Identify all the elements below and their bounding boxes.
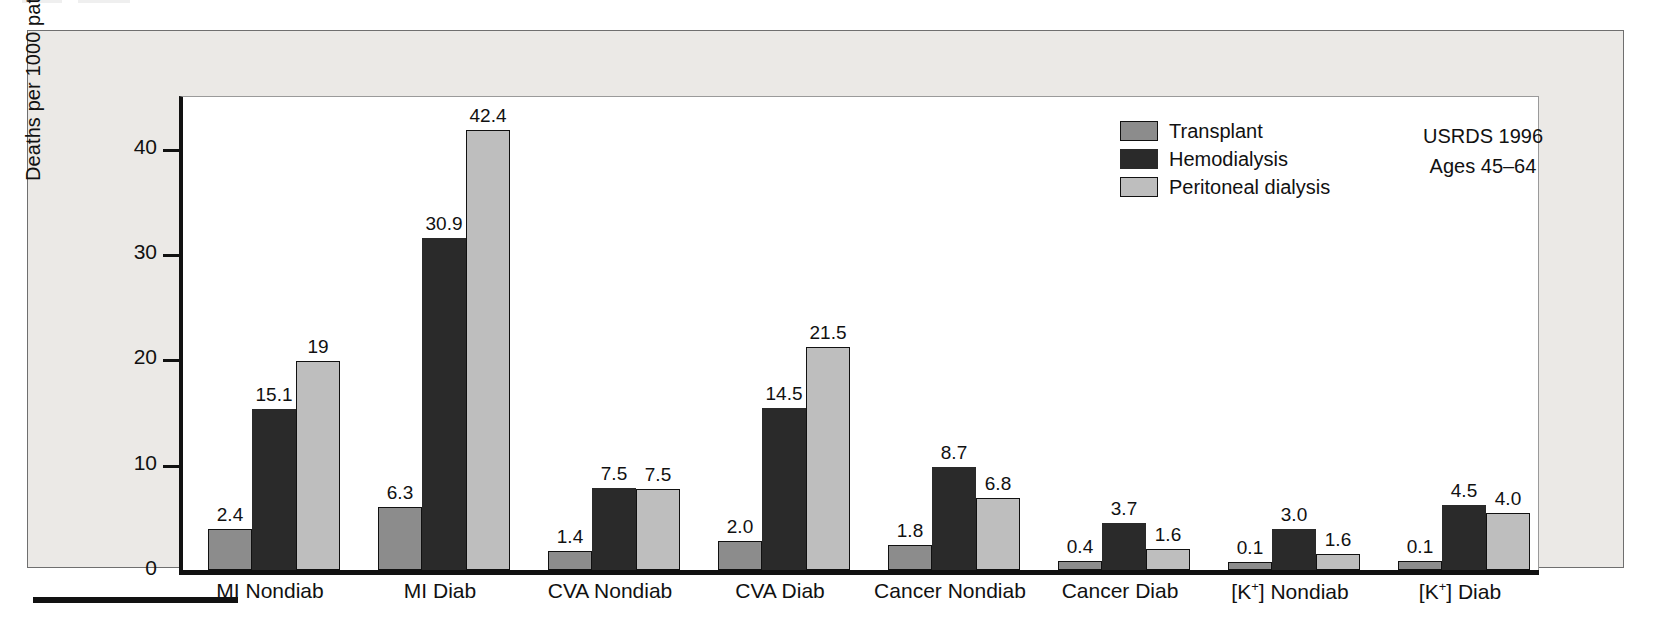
annotation-line-1: USRDS 1996	[1388, 121, 1578, 151]
bar	[592, 488, 636, 570]
figure-panel: Deaths per 1000 patient-years 010203040 …	[27, 30, 1624, 568]
bar-value-label: 6.8	[985, 473, 1011, 495]
bar	[1486, 513, 1530, 570]
bar	[888, 545, 932, 570]
bar-value-label: 6.3	[387, 482, 413, 504]
bars-layer: 2.415.1196.330.942.41.47.57.52.014.521.5…	[183, 97, 1538, 570]
bar-value-label: 15.1	[256, 384, 293, 406]
bar	[466, 130, 510, 570]
y-axis-tick-label: 30	[134, 240, 157, 264]
bar	[1272, 529, 1316, 570]
y-axis-tick-label: 10	[134, 451, 157, 475]
x-axis-label: [K+] Nondiab	[1231, 579, 1348, 604]
y-axis-tick-label: 20	[134, 345, 157, 369]
bar	[806, 347, 850, 570]
bar-value-label: 1.8	[897, 520, 923, 542]
x-axis-label: Cancer Diab	[1062, 579, 1179, 603]
y-axis-tick-label: 0	[145, 556, 157, 580]
bar-value-label: 8.7	[941, 442, 967, 464]
x-axis-label: CVA Diab	[735, 579, 825, 603]
legend: TransplantHemodialysisPeritoneal dialysi…	[1120, 119, 1330, 203]
bar-value-label: 42.4	[470, 105, 507, 127]
x-axis-label: CVA Nondiab	[548, 579, 673, 603]
legend-item: Peritoneal dialysis	[1120, 175, 1330, 199]
annotation-line-2: Ages 45–64	[1388, 151, 1578, 181]
x-axis-label: Cancer Nondiab	[874, 579, 1026, 603]
y-axis-tick-mark	[163, 149, 179, 152]
bar-value-label: 1.6	[1155, 524, 1181, 546]
bar	[976, 498, 1020, 570]
y-axis-tick: 10	[131, 465, 179, 466]
bar	[296, 361, 340, 570]
bar	[1058, 561, 1102, 570]
bar-value-label: 3.7	[1111, 498, 1137, 520]
bar	[1442, 505, 1486, 570]
y-axis-title: Deaths per 1000 patient-years	[22, 0, 45, 181]
y-axis-tick: 0	[131, 570, 179, 571]
bar	[1102, 523, 1146, 570]
bar-value-label: 1.6	[1325, 529, 1351, 551]
caption-rule	[33, 597, 238, 603]
y-axis-tick-label: 40	[134, 135, 157, 159]
bar	[1146, 549, 1190, 570]
bar-value-label: 0.1	[1237, 537, 1263, 559]
source-annotation: USRDS 1996 Ages 45–64	[1388, 121, 1578, 181]
bar-value-label: 30.9	[426, 213, 463, 235]
bar-value-label: 7.5	[645, 464, 671, 486]
bar	[422, 238, 466, 570]
plot-area: 2.415.1196.330.942.41.47.57.52.014.521.5…	[179, 96, 1539, 570]
bar-value-label: 14.5	[766, 383, 803, 405]
legend-swatch	[1120, 149, 1158, 169]
y-axis-tick-mark	[163, 359, 179, 362]
bar	[762, 408, 806, 570]
y-axis-tick: 20	[131, 359, 179, 360]
bar	[548, 551, 592, 570]
y-axis-tick-mark	[163, 254, 179, 257]
legend-label: Hemodialysis	[1169, 148, 1288, 171]
x-axis-baseline	[179, 570, 1539, 575]
bar-value-label: 4.5	[1451, 480, 1477, 502]
legend-item: Transplant	[1120, 119, 1330, 143]
bar-value-label: 21.5	[810, 322, 847, 344]
bar-value-label: 0.4	[1067, 536, 1093, 558]
bar-value-label: 19	[307, 336, 328, 358]
legend-label: Transplant	[1169, 120, 1263, 143]
legend-label: Peritoneal dialysis	[1169, 176, 1330, 199]
bar-value-label: 2.0	[727, 516, 753, 538]
bar	[252, 409, 296, 570]
bar	[932, 467, 976, 570]
bar-value-label: 2.4	[217, 504, 243, 526]
legend-swatch	[1120, 121, 1158, 141]
bar	[636, 489, 680, 570]
legend-item: Hemodialysis	[1120, 147, 1330, 171]
bar	[208, 529, 252, 570]
figure-page: Deaths per 1000 patient-years 010203040 …	[0, 0, 1661, 629]
y-axis-tick: 30	[131, 254, 179, 255]
x-axis-label: MI Diab	[404, 579, 476, 603]
bar	[1316, 554, 1360, 570]
bar-value-label: 7.5	[601, 463, 627, 485]
legend-swatch	[1120, 177, 1158, 197]
top-edge-mark-right	[78, 0, 130, 3]
bar	[718, 541, 762, 570]
bar-value-label: 3.0	[1281, 504, 1307, 526]
bar-value-label: 0.1	[1407, 536, 1433, 558]
bar-value-label: 1.4	[557, 526, 583, 548]
y-axis-tick-mark	[163, 465, 179, 468]
y-axis-tick: 40	[131, 149, 179, 150]
bar	[1398, 561, 1442, 570]
bar-value-label: 4.0	[1495, 488, 1521, 510]
bar	[378, 507, 422, 570]
bar	[1228, 562, 1272, 570]
x-axis-label: [K+] Diab	[1419, 579, 1501, 604]
